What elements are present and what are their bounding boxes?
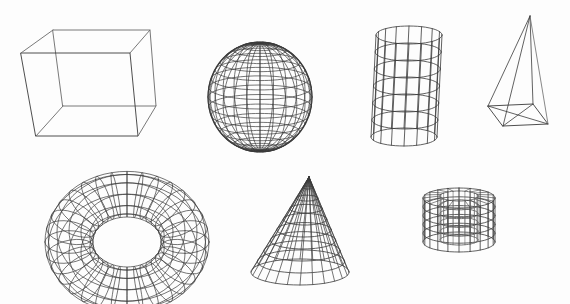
tube-wireframe [0,0,570,304]
wireframe-primitives-figure: Wireframe 3D primitives Box Sphere Cylin… [0,0,570,304]
